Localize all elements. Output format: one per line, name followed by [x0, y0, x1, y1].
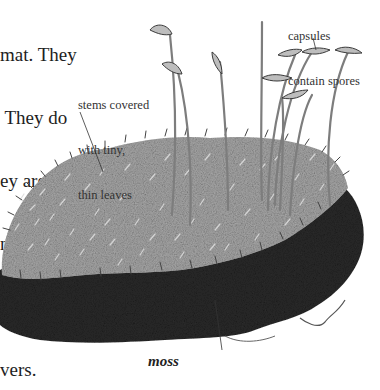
label-stems: stems covered with tiny, thin leaves: [78, 68, 149, 218]
label-roots: threadlike roots under the ground take i…: [238, 352, 371, 390]
label-line: capsules: [288, 29, 360, 44]
capsule: [212, 52, 222, 74]
label-line: stems covered: [78, 98, 149, 113]
label-line: contain spores: [288, 74, 360, 89]
label-line: thin leaves: [78, 188, 149, 203]
capsule: [162, 62, 182, 74]
label-capsules: capsules contain spores: [288, 0, 360, 104]
capsule: [150, 25, 172, 35]
label-line: with tiny,: [78, 143, 149, 158]
soil-edge: [225, 336, 275, 341]
figure-caption: moss: [148, 353, 179, 370]
